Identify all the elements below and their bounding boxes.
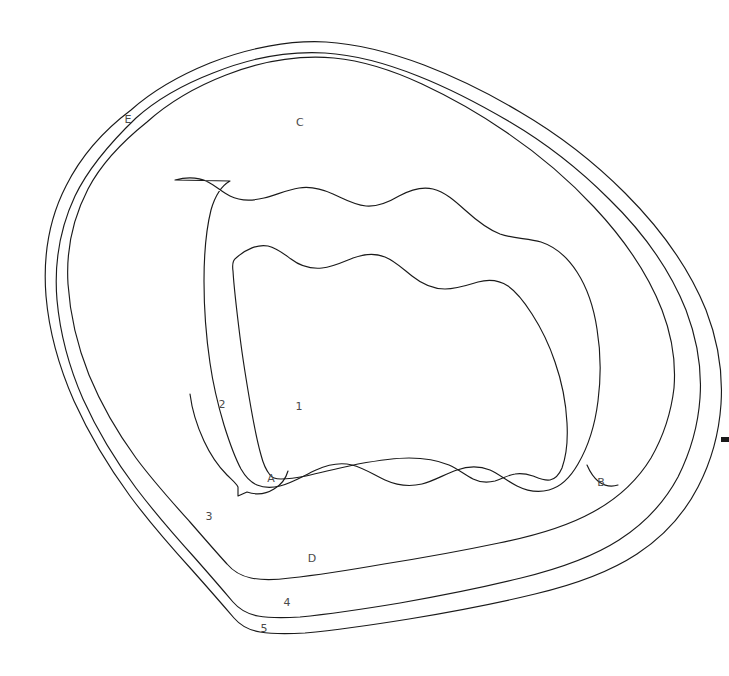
contour-canvas: [0, 0, 729, 676]
contour-tongue-A: [190, 394, 288, 496]
contour-level-1: [233, 246, 568, 482]
contour-level-4: [56, 53, 700, 618]
contour-level-2: [175, 178, 600, 491]
contour-level-3: [68, 57, 675, 579]
contour-notch-B: [587, 465, 618, 486]
contour-figure: E C 2 1 A B 3 D 4 5: [0, 0, 729, 676]
contour-level-5: [45, 42, 721, 634]
